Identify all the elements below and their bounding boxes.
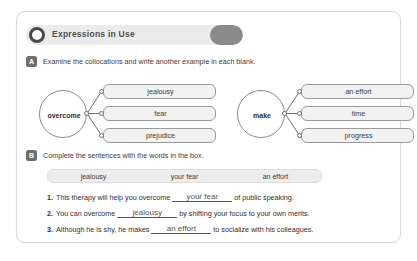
answer-blank[interactable]: an effort	[151, 224, 211, 234]
sentence-text-after: by shifting your focus to your own merit…	[179, 209, 309, 218]
page-title: Expressions in Use	[52, 29, 135, 39]
hub-connector-dot	[282, 111, 287, 116]
collocation-box: progress	[301, 128, 414, 143]
box-connector-dot	[297, 111, 302, 116]
sentence-text-after: to socialize with his colleagues.	[213, 225, 313, 234]
collocation-box: prejudice	[103, 128, 216, 143]
exercise-sentence: 1. This therapy will help you overcome y…	[47, 192, 294, 202]
header-pill-cap	[210, 25, 243, 45]
word-bank-item: your fear	[139, 173, 230, 180]
worksheet-card: Expressions in Use A Examine the colloca…	[16, 11, 401, 243]
word-bank-item: jealousy	[48, 173, 139, 180]
box-connector-dot	[297, 89, 302, 94]
sentence-number: 1.	[47, 193, 53, 202]
sentence-text-after: of public speaking.	[234, 193, 294, 202]
sentence-text-before: This therapy will help you overcome	[56, 193, 170, 202]
section-header-pill: Expressions in Use	[26, 25, 243, 45]
box-connector-dot	[99, 89, 104, 94]
box-connector-dot	[297, 133, 302, 138]
collocation-box-label: progress	[302, 129, 415, 142]
hub-connector-dot	[84, 111, 89, 116]
word-bank: jealousy your fear an effort	[47, 169, 322, 183]
collocation-box-label: jealousy	[104, 85, 217, 98]
section-marker-b: B	[26, 150, 37, 161]
box-connector-dot	[99, 133, 104, 138]
box-connector-dot	[99, 111, 104, 116]
answer-blank[interactable]: jealousy	[117, 208, 177, 218]
section-marker-a: A	[26, 56, 37, 67]
collocation-box-label: an effort	[302, 85, 415, 98]
word-bank-item: an effort	[230, 173, 321, 180]
circle-outline-icon	[29, 27, 45, 43]
sentence-number: 2.	[47, 209, 53, 218]
sentence-text-before: You can overcome	[56, 209, 115, 218]
collocation-diagram-overcome: overcome jealousy fear prejudice	[35, 83, 220, 145]
collocation-diagram-make: make an effort time progress	[233, 83, 417, 145]
collocation-box: time	[301, 106, 414, 121]
collocation-box: an effort	[301, 84, 414, 99]
answer-blank[interactable]: your fear	[172, 192, 232, 202]
collocation-box-label: prejudice	[104, 129, 217, 142]
sentence-text-before: Although he is shy, he makes	[56, 225, 149, 234]
collocation-box: fear	[103, 106, 216, 121]
section-a-instruction: Examine the collocations and write anoth…	[43, 57, 256, 66]
exercise-sentence: 2. You can overcome jealousy by shifting…	[47, 208, 310, 218]
section-b-instruction: Complete the sentences with the words in…	[43, 151, 204, 160]
collocation-box: jealousy	[103, 84, 216, 99]
exercise-sentence: 3. Although he is shy, he makes an effor…	[47, 224, 313, 234]
collocation-box-label: time	[302, 107, 415, 120]
collocation-box-label: fear	[104, 107, 217, 120]
sentence-number: 3.	[47, 225, 53, 234]
